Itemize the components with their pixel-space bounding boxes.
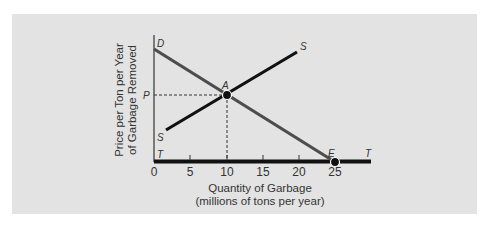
label-t-left: T — [157, 149, 164, 160]
x-axis-label-line1: Quantity of Garbage — [160, 182, 360, 195]
x-axis-label: Quantity of Garbage (millions of tons pe… — [160, 182, 360, 208]
x-tick-label: 0 — [151, 165, 158, 179]
x-axis-label-line2: (millions of tons per year) — [160, 195, 360, 208]
x-ticks — [190, 155, 299, 160]
x-tick-label: 10 — [220, 165, 234, 179]
x-tick-label: 5 — [187, 165, 194, 179]
y-axis-label-line1: Price per Ton per Year — [113, 35, 126, 165]
label-a: A — [221, 80, 229, 91]
y-axis-label-line2: of Garbage Removed — [126, 35, 139, 165]
label-s-top: S — [300, 41, 307, 52]
point-a — [223, 91, 232, 100]
label-d: D — [157, 38, 164, 49]
label-s-bottom: S — [157, 132, 164, 143]
x-tick-label: 15 — [256, 165, 270, 179]
label-e: E — [328, 148, 335, 159]
x-tick-label: 25 — [328, 165, 342, 179]
demand-line — [154, 49, 335, 162]
label-t-right: T — [365, 148, 372, 159]
supply-line — [166, 52, 297, 130]
y-axis-label: Price per Ton per Year of Garbage Remove… — [113, 35, 139, 165]
label-p: P — [143, 90, 150, 101]
x-tick-label: 20 — [292, 165, 306, 179]
